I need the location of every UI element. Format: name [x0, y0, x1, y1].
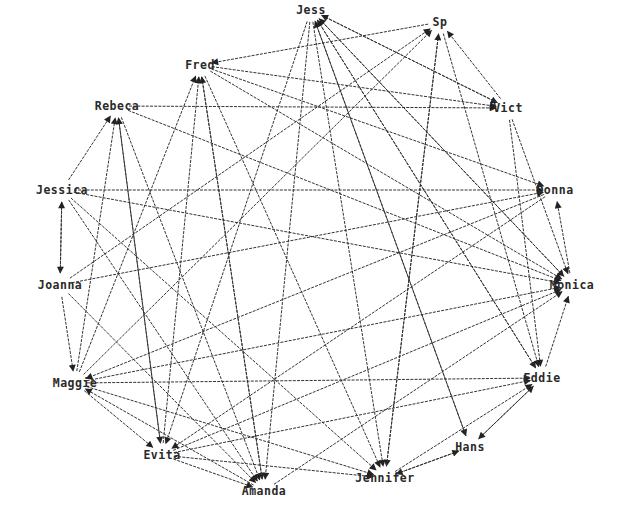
edge-donna-to-maggie	[86, 194, 544, 378]
edge-vict-to-jess	[322, 15, 498, 102]
node-maggie: Maggie	[53, 376, 98, 390]
node-jessica: Jessica	[36, 183, 88, 197]
node-hans: Hans	[455, 440, 485, 454]
edge-jessica-to-rebeca	[69, 116, 111, 180]
edge-sp-to-fred	[212, 24, 428, 63]
edge-rebeca-to-monica	[128, 110, 561, 280]
node-evita: Evita	[143, 448, 180, 462]
edge-joanna-to-maggie	[62, 297, 73, 371]
node-eddie: Eddie	[523, 371, 560, 385]
node-donna: Donna	[536, 183, 573, 197]
edge-evita-to-rebeca	[119, 118, 161, 443]
node-fred: Fred	[185, 58, 215, 72]
edge-jess-to-jennifer	[313, 22, 383, 466]
edge-jennifer-to-eddie	[395, 384, 532, 471]
edge-maggie-to-monica	[87, 287, 560, 380]
edge-fred-to-donna	[211, 69, 543, 186]
edge-eddie-to-hans	[479, 386, 534, 438]
node-jess: Jess	[296, 3, 326, 17]
edge-evita-to-monica	[173, 290, 561, 451]
edge-jennifer-to-sp	[386, 34, 438, 466]
edge-maggie-to-evita	[84, 391, 153, 448]
edge-vict-to-eddie	[509, 120, 540, 366]
edges-layer	[60, 15, 570, 487]
edge-rebeca-to-vict	[129, 106, 496, 108]
edge-joanna-to-sp	[70, 29, 430, 278]
edge-vict-to-sp	[447, 31, 500, 98]
node-amanda: Amanda	[242, 484, 287, 498]
edge-eddie-to-monica	[546, 296, 569, 366]
edge-joanna-to-jessica	[60, 202, 61, 273]
edge-maggie-to-jennifer	[86, 387, 373, 475]
edge-amanda-to-fred	[202, 77, 262, 479]
node-monica: Monica	[550, 278, 595, 292]
edge-donna-to-evita	[172, 197, 545, 449]
edge-maggie-to-fred	[79, 76, 195, 372]
edge-amanda-to-monica	[274, 292, 562, 485]
edge-evita-to-fred	[163, 77, 199, 443]
edge-joanna-to-donna	[72, 192, 543, 282]
network-diagram	[0, 0, 633, 521]
edge-fred-to-vict	[212, 67, 496, 107]
node-sp: Sp	[433, 15, 448, 29]
edge-maggie-to-rebeca	[77, 118, 115, 371]
node-jennifer: Jennifer	[355, 471, 414, 485]
edge-jessica-to-amanda	[69, 200, 258, 481]
edge-eddie-to-jess	[317, 20, 535, 368]
node-rebeca: Rebeca	[95, 99, 140, 113]
edge-evita-to-jennifer	[174, 456, 373, 477]
node-joanna: Joanna	[38, 278, 83, 292]
edge-maggie-to-sp	[84, 30, 432, 374]
edge-jessica-to-monica	[74, 192, 560, 283]
node-vict: Vict	[493, 101, 523, 115]
